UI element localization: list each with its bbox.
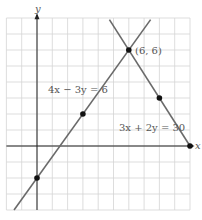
data-point <box>187 143 193 149</box>
line2-label: 3x + 2y = 30 <box>119 122 185 133</box>
y-axis-label: y <box>34 3 41 14</box>
data-point <box>34 175 40 181</box>
line1-label: 4x − 3y = 6 <box>48 84 108 95</box>
x-axis-label: x <box>195 140 201 151</box>
intersection-label: (6, 6) <box>135 45 162 56</box>
data-point <box>80 111 86 117</box>
data-point <box>157 95 163 101</box>
data-point <box>126 47 132 53</box>
lines <box>14 20 190 210</box>
y-axis-arrow-icon <box>35 13 40 19</box>
graph: y x 4x − 3y = 6 3x + 2y = 30 (6, 6) <box>0 0 202 220</box>
